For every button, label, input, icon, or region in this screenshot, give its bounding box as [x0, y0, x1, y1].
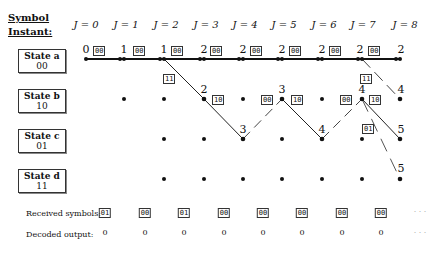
branch-label-a23: 00 — [171, 46, 183, 56]
metric-a-j3: 2 — [201, 44, 208, 55]
decoded-bit-4: 0 — [221, 228, 226, 237]
decoded-output-label: Decoded output: — [26, 230, 93, 239]
received-symbol-2: 00 — [139, 208, 151, 218]
received-symbol-5: 00 — [257, 208, 269, 218]
metric-a-j8: 2 — [398, 44, 405, 55]
metric-a-j4: 2 — [240, 44, 247, 55]
decoded-bit-2: 0 — [142, 228, 147, 237]
branch-label-a34: 00 — [210, 46, 222, 56]
metric-b-j5: 3 — [279, 84, 286, 95]
branch-label-a2-b3: 11 — [163, 74, 175, 84]
branch-label-a12: 00 — [133, 46, 145, 56]
metric-b-j3: 2 — [201, 84, 208, 95]
metric-a-j5: 2 — [279, 44, 286, 55]
metric-b-j7: 4 — [359, 84, 366, 95]
received-symbol-8: 00 — [375, 208, 387, 218]
branch-label-a01: 00 — [93, 46, 105, 56]
received-symbol-3: 01 — [178, 208, 190, 218]
metric-c-j8: 5 — [398, 124, 405, 135]
metric-a-j7: 2 — [357, 44, 364, 55]
branch-label-b7-c8: 10 — [369, 95, 381, 105]
branch-label-b5-c6: 10 — [291, 95, 303, 105]
decoded-bit-3: 0 — [181, 228, 186, 237]
received-symbol-4: 00 — [218, 208, 230, 218]
decoded-bit-7: 0 — [339, 228, 344, 237]
branch-label-a78: 00 — [368, 46, 380, 56]
received-symbol-7: 00 — [336, 208, 348, 218]
metric-c-j4: 3 — [240, 124, 247, 135]
branch-label-a67: 00 — [329, 46, 341, 56]
received-symbol-1: 01 — [99, 208, 111, 218]
decoded-bit-1: 0 — [102, 228, 107, 237]
metric-d-j8: 5 — [398, 163, 405, 174]
received-symbols-label: Received symbols: — [26, 209, 101, 218]
branch-label-a45: 00 — [250, 46, 262, 56]
decoded-more: · · · — [414, 228, 427, 237]
metric-b-j8: 4 — [398, 84, 405, 95]
metric-a-j2: 1 — [161, 44, 168, 55]
branch-label-c4-b5: 00 — [261, 95, 273, 105]
branch-label-c6-b7: 00 — [340, 95, 352, 105]
branch-label-b7-d8: 01 — [362, 124, 374, 134]
branch-label-b3-c4: 10 — [212, 95, 224, 105]
decoded-bit-6: 0 — [299, 228, 304, 237]
branch-label-a56: 00 — [289, 46, 301, 56]
decoded-bit-5: 0 — [260, 228, 265, 237]
received-more: · · · — [414, 207, 427, 216]
metric-a-j0: 0 — [83, 44, 90, 55]
path-b5-c6 — [282, 99, 322, 139]
trellis-nodes — [84, 57, 402, 181]
received-symbol-6: 00 — [296, 208, 308, 218]
metric-a-j1: 1 — [121, 44, 128, 55]
path-b7-d8 — [362, 99, 400, 179]
decoded-bit-8: 0 — [378, 228, 383, 237]
path-c6-b7 — [322, 99, 362, 139]
metric-c-j6: 4 — [319, 124, 326, 135]
metric-a-j6: 2 — [319, 44, 326, 55]
path-c4-b5 — [243, 99, 282, 139]
branch-label-a7-b8: 11 — [360, 74, 372, 84]
